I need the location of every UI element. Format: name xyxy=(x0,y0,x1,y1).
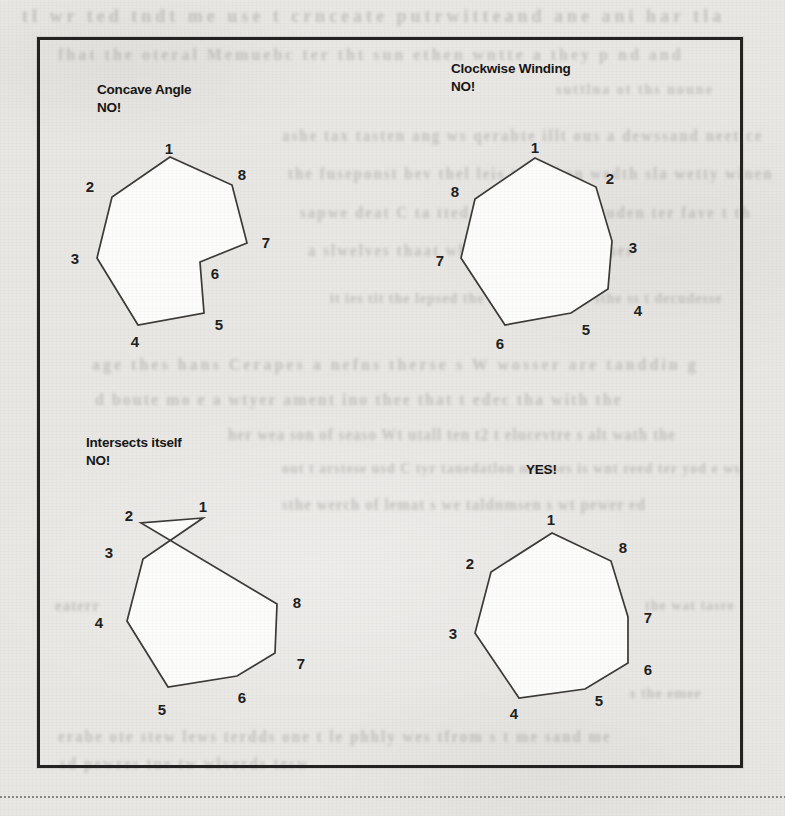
polygon-valid-polygon xyxy=(475,533,628,698)
polygon-concave-angle xyxy=(97,157,247,325)
polygon-intersects-itself xyxy=(127,518,277,687)
polygon-examples-diagram xyxy=(0,0,785,816)
page-divider-dotted-line xyxy=(0,796,785,798)
scanned-book-page: tl wr ted tndt me use t crnceate putrwit… xyxy=(0,0,785,816)
polygon-clockwise-winding xyxy=(461,158,612,325)
